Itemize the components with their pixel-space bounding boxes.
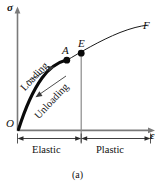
stress-strain-plot: [0, 0, 163, 187]
figure-caption: (a): [72, 170, 83, 180]
elastic-dimension-line: [18, 134, 82, 144]
y-axis-label: σ: [7, 2, 13, 13]
point-e-label: E: [78, 38, 85, 49]
point-e-marker: [78, 50, 85, 57]
elastic-region-label: Elastic: [32, 145, 61, 156]
point-a-label: A: [62, 45, 69, 56]
point-a-marker: [63, 57, 70, 64]
plastic-region-label: Plastic: [96, 145, 124, 156]
y-axis: [15, 7, 21, 132]
x-axis: [18, 128, 156, 134]
plastic-dimension-line: [81, 134, 150, 144]
stress-strain-figure: σ ε O A E F Loading Unloading Elastic Pl…: [0, 0, 163, 187]
point-o-label: O: [6, 118, 14, 129]
point-f-label: F: [143, 20, 150, 31]
x-axis-label: ε: [150, 130, 155, 141]
